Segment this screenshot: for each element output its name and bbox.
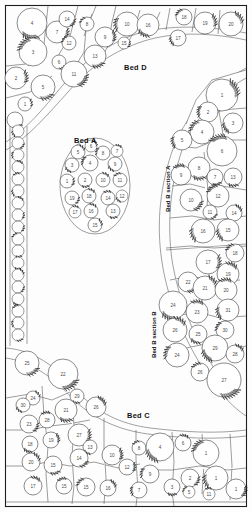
plant-number: 15 xyxy=(61,484,67,489)
plant-number: 9 xyxy=(104,35,107,40)
plant-number: 18 xyxy=(27,442,33,447)
plant-number: 16 xyxy=(105,486,111,491)
plant-number: 30 xyxy=(222,328,228,333)
plant-number: 11 xyxy=(208,210,213,215)
plant-number: 26 xyxy=(172,328,178,333)
plant-number: 7 xyxy=(214,175,217,180)
plant-circle xyxy=(12,125,24,137)
plant-number: 22 xyxy=(185,280,191,285)
plant-number: 8 xyxy=(86,22,89,27)
plant-number: 9 xyxy=(180,173,183,178)
plant-number: 17 xyxy=(72,210,78,215)
plant-number: 23 xyxy=(194,310,200,315)
plant-number: 6 xyxy=(182,441,185,446)
plant-circle xyxy=(12,209,24,221)
plant-number: 31 xyxy=(225,308,231,313)
plant-number: 15 xyxy=(92,223,98,228)
plant-number: 13 xyxy=(110,209,116,214)
plant-number: 19 xyxy=(225,272,231,277)
plant-number: 20 xyxy=(228,22,234,27)
plant-number: 10 xyxy=(109,453,115,458)
plant-circle xyxy=(12,221,24,233)
plant-number: 2 xyxy=(15,76,18,81)
plant-number: 19 xyxy=(202,21,208,26)
plant-number: 15 xyxy=(50,463,56,468)
plant-number: 11 xyxy=(118,178,123,183)
plant-number: 20 xyxy=(28,460,34,465)
plant-number: 10 xyxy=(188,198,194,203)
plant-number: 12 xyxy=(119,194,125,199)
plant-number: 11 xyxy=(207,492,212,497)
plant-number: 13 xyxy=(230,175,236,180)
plant-number: 18 xyxy=(232,251,238,256)
plant-circle xyxy=(12,149,24,161)
plant-number: 17 xyxy=(175,36,181,41)
plant-number: 3 xyxy=(32,50,35,55)
plant-number: 26 xyxy=(197,370,203,375)
plant-circle xyxy=(12,197,24,209)
plant-number: 24 xyxy=(30,396,36,401)
plant-number: 6 xyxy=(90,144,93,149)
plant-circle xyxy=(12,269,24,281)
plant-number: 3 xyxy=(232,121,235,126)
plant-number: 8 xyxy=(138,446,141,451)
plant-number: 29 xyxy=(212,346,218,351)
plant-number: 14 xyxy=(231,211,237,216)
plant-number: 1 xyxy=(205,451,208,456)
plant-number: 30 xyxy=(20,403,26,408)
plant-number: 11 xyxy=(72,72,77,77)
plant-number: 14 xyxy=(64,17,70,22)
plant-number: 16 xyxy=(200,229,206,234)
plant-number: 24 xyxy=(170,303,176,308)
plant-number: 19 xyxy=(48,438,54,443)
plant-number: 2 xyxy=(207,110,210,115)
plant-number: 15 xyxy=(83,485,89,490)
plant-number: 1 xyxy=(235,487,238,492)
plant-number: 2 xyxy=(84,178,87,183)
plant-number: 21 xyxy=(202,286,208,291)
plant-number: 26 xyxy=(93,405,99,410)
plant-number: 18 xyxy=(181,15,187,20)
plant-number: 22 xyxy=(60,372,66,377)
plant-number: 28 xyxy=(44,418,50,423)
plant-number: 7 xyxy=(138,488,141,493)
plant-circle xyxy=(12,245,24,257)
plant-number: 3 xyxy=(171,485,174,490)
plant-number: 5 xyxy=(42,85,45,90)
plant-number: 4 xyxy=(31,21,34,26)
plant-number: 29 xyxy=(74,394,80,399)
plant-number: 1 xyxy=(66,179,69,184)
plant-number: 1 xyxy=(215,476,218,481)
plant-number: 3 xyxy=(71,163,74,168)
plant-number: 17 xyxy=(30,484,36,489)
plant-number: 17 xyxy=(205,260,211,265)
plant-number: 7 xyxy=(56,30,59,35)
plant-number: 8 xyxy=(102,151,105,156)
plant-number: 13 xyxy=(87,445,93,450)
plant-number: 19 xyxy=(69,196,75,201)
plant-number: 21 xyxy=(63,408,69,413)
plant-number: 9 xyxy=(149,472,152,477)
plant-symbol[interactable] xyxy=(12,233,25,245)
plant-number: 6 xyxy=(58,60,61,65)
plant-number: 18 xyxy=(86,194,92,199)
plant-number: 25 xyxy=(195,332,201,337)
plant-number: 20 xyxy=(223,288,229,293)
plant-symbol[interactable] xyxy=(12,269,24,282)
plant-number: 2 xyxy=(189,476,192,481)
plan-canvas: 4714812361113915101617181920251658734912… xyxy=(0,0,252,512)
plant-circle xyxy=(12,305,24,317)
plant-number: 10 xyxy=(100,178,106,183)
plant-number: 10 xyxy=(124,22,130,27)
plant-number: 9 xyxy=(114,162,117,167)
plant-number: 13 xyxy=(92,54,98,59)
plant-number: 15 xyxy=(121,41,127,46)
plant-number: 15 xyxy=(225,228,231,233)
plant-number: 12 xyxy=(215,194,221,199)
plant-number: 5 xyxy=(77,150,80,155)
plant-number: 1 xyxy=(221,93,224,98)
plant-number: 6 xyxy=(221,149,224,154)
plant-number: 27 xyxy=(76,433,82,438)
plant-number: 27 xyxy=(221,378,227,383)
plant-number: 14 xyxy=(105,196,111,201)
